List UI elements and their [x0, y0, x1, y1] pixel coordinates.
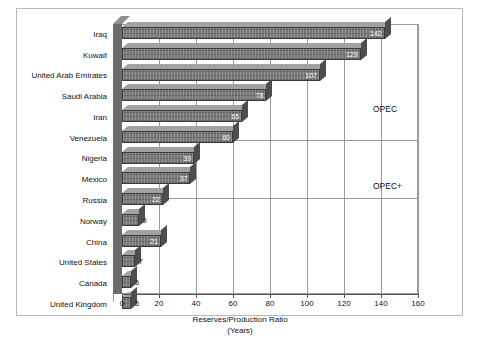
bar-side-face	[233, 121, 239, 143]
bar-front-face	[122, 89, 266, 101]
bar[interactable]: 107	[122, 69, 320, 81]
bar-row: 21	[122, 232, 418, 253]
bar-value-label: 60	[222, 133, 230, 140]
category-label: Norway	[0, 211, 112, 232]
bar[interactable]: 65	[122, 110, 242, 122]
bar[interactable]: 129	[122, 48, 361, 60]
bar[interactable]: 78	[122, 89, 266, 101]
annotation-opec: OPEC	[373, 104, 397, 114]
bar-front-face	[122, 69, 320, 81]
bar-value-label: 9	[143, 216, 147, 223]
bar-rows: 142129107786560393722921755	[122, 24, 418, 294]
category-label: Venezuela	[0, 128, 112, 149]
bar-value-label: 5	[135, 279, 139, 286]
bar-side-face	[194, 142, 200, 164]
bar-side-face	[190, 162, 196, 184]
bar-row: 5	[122, 273, 418, 294]
x-axis-title: Reserves/Production Ratio	[0, 315, 480, 324]
bar-value-label: 22	[152, 196, 160, 203]
category-label: China	[0, 232, 112, 253]
bar-side-face	[385, 17, 391, 39]
bar-side-face	[242, 100, 248, 122]
annotation-opec-plus: OPEC+	[373, 181, 402, 191]
x-tick-label: 0	[120, 299, 124, 308]
bar[interactable]: 7	[122, 255, 135, 267]
bar-side-face	[320, 58, 326, 80]
x-tick-label: 80	[266, 299, 275, 308]
category-label: Canada	[0, 273, 112, 294]
x-tick	[381, 294, 382, 298]
category-label: Iraq	[0, 24, 112, 45]
bar-front-face	[122, 255, 135, 267]
x-tick-label: 100	[300, 299, 313, 308]
bar-value-label: 107	[305, 71, 317, 78]
x-tick	[307, 294, 308, 298]
bar-value-label: 39	[183, 154, 191, 161]
bar-value-label: 78	[256, 92, 264, 99]
category-label: United Kingdom	[0, 294, 112, 315]
x-tick-label: 160	[411, 299, 424, 308]
bar-row: 22	[122, 190, 418, 211]
category-label: Iran	[0, 107, 112, 128]
bar-value-label: 37	[180, 175, 188, 182]
category-label: United States	[0, 252, 112, 273]
reserves-production-ratio-chart: IraqKuwaitUnited Arab EmiratesSaudi Arab…	[0, 0, 480, 356]
bar-value-label: 129	[346, 50, 358, 57]
bar-value-label: 7	[139, 258, 143, 265]
bar-row: 142	[122, 24, 418, 45]
bar[interactable]: 21	[122, 235, 161, 247]
bar[interactable]: 5	[122, 276, 131, 288]
x-tick	[159, 294, 160, 298]
category-axis-labels: IraqKuwaitUnited Arab EmiratesSaudi Arab…	[0, 24, 112, 294]
bar-front-face	[122, 214, 139, 226]
bar[interactable]: 60	[122, 131, 233, 143]
x-tick	[418, 294, 419, 298]
x-tick	[196, 294, 197, 298]
plot-area: 142129107786560393722921755	[122, 24, 418, 294]
bar[interactable]: 22	[122, 193, 163, 205]
x-axis-title-units: (Years)	[0, 326, 480, 335]
bar-side-face	[361, 38, 367, 60]
gridline-160	[418, 24, 419, 294]
x-tick	[122, 294, 123, 298]
bar-row: 60	[122, 128, 418, 149]
category-label: Saudi Arabia	[0, 86, 112, 107]
bar-front-face	[122, 48, 361, 60]
bar-value-label: 65	[231, 113, 239, 120]
bar-front-face	[122, 131, 233, 143]
x-tick-label: 20	[155, 299, 164, 308]
bar-side-face	[163, 183, 169, 205]
bar-front-face	[122, 276, 131, 288]
category-label: Kuwait	[0, 45, 112, 66]
plot-side-wall	[113, 24, 122, 294]
x-tick	[344, 294, 345, 298]
bar-value-label: 5	[135, 299, 139, 306]
x-tick	[233, 294, 234, 298]
x-tick-label: 120	[337, 299, 350, 308]
bar-value-label: 21	[150, 237, 158, 244]
bar-front-face	[122, 110, 242, 122]
bar-value-label: 142	[370, 30, 382, 37]
bar[interactable]: 37	[122, 172, 190, 184]
category-label: Russia	[0, 190, 112, 211]
bar-row: 129	[122, 45, 418, 66]
category-label: Mexico	[0, 169, 112, 190]
bar[interactable]: 9	[122, 214, 139, 226]
bar[interactable]: 142	[122, 27, 385, 39]
category-label: Nigeria	[0, 149, 112, 170]
bar-row: 7	[122, 252, 418, 273]
category-label: United Arab Emirates	[0, 66, 112, 87]
bar-front-face	[122, 27, 385, 39]
x-tick-label: 140	[374, 299, 387, 308]
bar-side-face	[266, 79, 272, 101]
bar[interactable]: 39	[122, 152, 194, 164]
bar-side-face	[161, 225, 167, 247]
x-tick-label: 40	[192, 299, 201, 308]
x-tick-label: 60	[229, 299, 238, 308]
x-tick	[270, 294, 271, 298]
